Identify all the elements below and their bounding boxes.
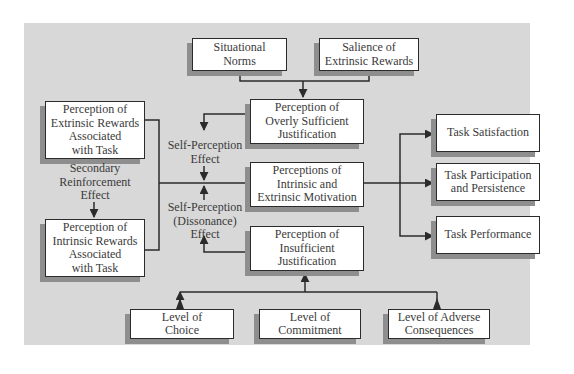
label-secondary-reinforcement-effect: Secondary Reinforcement Effect bbox=[40, 162, 150, 203]
box-intrinsic-extrinsic-motivation: Perceptions of Intrinsic and Extrinsic M… bbox=[250, 162, 364, 207]
box-task-satisfaction: Task Satisfaction bbox=[436, 114, 540, 152]
box-intrinsic-rewards: Perception of Intrinsic Rewards Associat… bbox=[45, 219, 145, 277]
box-task-participation: Task Participation and Persistence bbox=[436, 163, 540, 201]
box-salience-of-extrinsic-rewards: Salience of Extrinsic Rewards bbox=[319, 38, 419, 71]
label-self-perception-effect: Self-Perception Effect bbox=[160, 139, 250, 166]
box-task-performance: Task Performance bbox=[436, 216, 540, 254]
box-level-of-choice: Level of Choice bbox=[130, 309, 234, 339]
box-overly-sufficient-justification: Perception of Overly Sufficient Justific… bbox=[250, 99, 364, 144]
box-situational-norms: Situational Norms bbox=[192, 38, 287, 71]
box-insufficient-justification: Perception of Insufficient Justification bbox=[250, 226, 364, 271]
box-extrinsic-rewards: Perception of Extrinsic Rewards Associat… bbox=[45, 101, 145, 159]
label-self-perception-dissonance-effect: Self-Perception (Dissonance) Effect bbox=[160, 201, 250, 242]
box-level-of-adverse-consequences: Level of Adverse Consequences bbox=[388, 309, 490, 339]
box-level-of-commitment: Level of Commitment bbox=[259, 309, 361, 339]
